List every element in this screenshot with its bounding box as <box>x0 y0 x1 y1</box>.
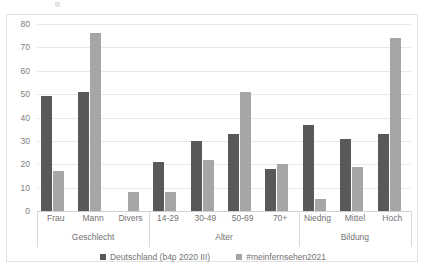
legend-label: Deutschland (b4p 2020 III) <box>110 252 210 262</box>
y-tick-label-20: 20 <box>21 159 30 169</box>
category-label: Divers <box>112 213 149 223</box>
category-axis: FrauMannDivers14-2930-4950-6970+NiedrigM… <box>37 213 411 229</box>
y-tick-label-80: 80 <box>21 19 30 29</box>
bar[interactable] <box>191 141 202 211</box>
legend-swatch-icon <box>100 254 106 260</box>
legend-item[interactable]: #meinfernsehen2021 <box>236 252 326 262</box>
plot-area <box>37 24 411 211</box>
legend-label: #meinfernsehen2021 <box>246 252 326 262</box>
bar[interactable] <box>303 125 314 211</box>
bar-group <box>224 24 261 211</box>
y-tick-label-50: 50 <box>21 89 30 99</box>
bar[interactable] <box>153 162 164 211</box>
bar[interactable] <box>277 164 288 211</box>
bar[interactable] <box>53 171 64 211</box>
category-label: Frau <box>37 213 74 223</box>
bar-group <box>112 24 149 211</box>
bar-group <box>374 24 411 211</box>
bars-layer <box>37 24 411 211</box>
group-axis: GeschlechtAlterBildung <box>37 230 411 246</box>
bar[interactable] <box>378 134 389 211</box>
bar-group <box>149 24 186 211</box>
bar[interactable] <box>340 139 351 211</box>
group-separator <box>149 211 150 247</box>
bar[interactable] <box>78 92 89 211</box>
legend-item[interactable]: Deutschland (b4p 2020 III) <box>100 252 210 262</box>
y-tick-label-60: 60 <box>21 66 30 76</box>
category-label: Niedrig <box>299 213 336 223</box>
category-label: 70+ <box>261 213 298 223</box>
category-label: Mann <box>74 213 111 223</box>
bar-group <box>74 24 111 211</box>
bar-group <box>299 24 336 211</box>
category-label: 14-29 <box>149 213 186 223</box>
y-tick-label-40: 40 <box>21 113 30 123</box>
y-tick-label-30: 30 <box>21 136 30 146</box>
group-label: Bildung <box>299 232 411 242</box>
bar[interactable] <box>240 92 251 211</box>
axis-end-tick <box>37 211 38 247</box>
category-label: 50-69 <box>224 213 261 223</box>
y-axis-labels: 01020304050607080 <box>7 24 34 211</box>
bar-group <box>37 24 74 211</box>
bar[interactable] <box>315 199 326 211</box>
chart-container: 01020304050607080 FrauMannDivers14-2930-… <box>6 14 418 262</box>
cutoff-swatch-icon <box>55 2 60 7</box>
bar-group <box>187 24 224 211</box>
bar-group <box>261 24 298 211</box>
bar[interactable] <box>165 192 176 211</box>
y-tick-label-70: 70 <box>21 42 30 52</box>
category-label: 30-49 <box>187 213 224 223</box>
bar[interactable] <box>90 33 101 211</box>
bar[interactable] <box>203 160 214 211</box>
chart-legend: Deutschland (b4p 2020 III)#meinfernsehen… <box>7 250 419 264</box>
bar[interactable] <box>390 38 401 211</box>
group-separator <box>299 211 300 247</box>
x-axis-line <box>37 211 411 212</box>
cutoff-legend-remnant <box>55 0 175 10</box>
bar[interactable] <box>352 167 363 211</box>
bar[interactable] <box>128 192 139 211</box>
legend-swatch-icon <box>236 254 242 260</box>
bar[interactable] <box>265 169 276 211</box>
bar[interactable] <box>41 96 52 211</box>
bar-group <box>336 24 373 211</box>
y-tick-label-10: 10 <box>21 183 30 193</box>
category-label: Hoch <box>374 213 411 223</box>
group-label: Alter <box>149 232 299 242</box>
category-label: Mittel <box>336 213 373 223</box>
axis-end-tick <box>411 211 412 247</box>
bar[interactable] <box>228 134 239 211</box>
y-tick-label-0: 0 <box>25 206 30 216</box>
group-label: Geschlecht <box>37 232 149 242</box>
